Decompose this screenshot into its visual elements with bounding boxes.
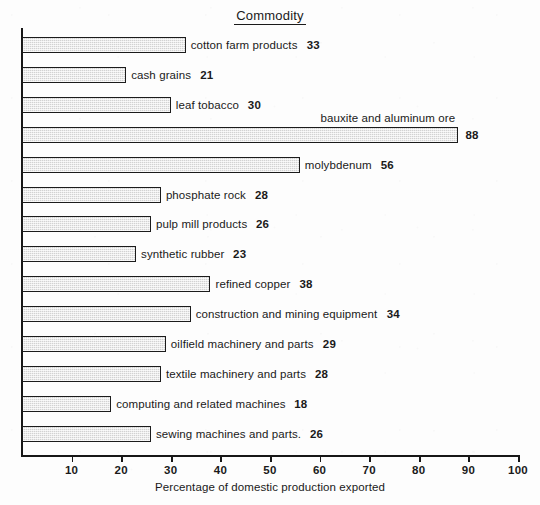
bar-value: 23 (233, 248, 246, 260)
x-tick-label: 100 (508, 464, 528, 476)
x-tick (419, 455, 421, 462)
bar-value: 26 (256, 218, 269, 230)
bar-label: oilfield machinery and parts (171, 338, 314, 350)
bar-label: bauxite and aluminum ore (320, 112, 455, 124)
bar-label: cash grains (131, 69, 191, 81)
bar[interactable] (22, 336, 166, 352)
bar-value: 18 (294, 398, 307, 410)
x-tick-label: 50 (263, 464, 276, 476)
bar-label: pulp mill products (156, 218, 247, 230)
bar-label: refined copper (215, 278, 290, 290)
bar-value: 29 (323, 338, 336, 350)
bar-label: cotton farm products (191, 39, 298, 51)
bar-row: oilfield machinery and parts29 (22, 336, 518, 352)
bar-chart: Commodity cotton farm products33cash gra… (0, 0, 540, 505)
bar-row: textile machinery and parts28 (22, 366, 518, 382)
bar[interactable] (22, 216, 151, 232)
bar[interactable] (22, 67, 126, 83)
bar-value: 38 (299, 278, 312, 290)
bar[interactable] (22, 246, 136, 262)
x-tick-label: 30 (164, 464, 177, 476)
x-tick (72, 455, 74, 462)
bar-row: molybdenum56 (22, 157, 518, 173)
bar-row: computing and related machines18 (22, 396, 518, 412)
x-tick (270, 455, 272, 462)
bar[interactable] (22, 157, 300, 173)
bar-label: sewing machines and parts. (156, 427, 301, 439)
x-tick (121, 455, 123, 462)
x-axis-title: Percentage of domestic production export… (22, 481, 518, 493)
x-tick (220, 455, 222, 462)
bar-row: leaf tobacco30 (22, 97, 518, 113)
bar-row: sewing machines and parts.26 (22, 426, 518, 442)
bar[interactable] (22, 276, 210, 292)
bar-label: leaf tobacco (176, 99, 239, 111)
chart-title-text: Commodity (234, 8, 306, 25)
bar-row: synthetic rubber23 (22, 246, 518, 262)
bar-value: 28 (255, 188, 268, 200)
bar-value: 28 (315, 368, 328, 380)
bar-value: 56 (381, 158, 394, 170)
bar-value: 30 (248, 99, 261, 111)
plot-area: cotton farm products33cash grains21leaf … (22, 28, 518, 455)
bar[interactable] (22, 97, 171, 113)
bar-label: construction and mining equipment (196, 308, 378, 320)
x-tick (468, 455, 470, 462)
x-tick-label: 20 (114, 464, 127, 476)
bar-row: construction and mining equipment34 (22, 306, 518, 322)
x-tick (320, 455, 322, 462)
bar-label: molybdenum (305, 158, 372, 170)
bar-row: cotton farm products33 (22, 37, 518, 53)
x-tick-label: 90 (462, 464, 475, 476)
x-tick (369, 455, 371, 462)
bar[interactable] (22, 187, 161, 203)
bar-value: 33 (307, 39, 320, 51)
bar-value: 88 (465, 128, 478, 140)
bar-label: phosphate rock (166, 188, 246, 200)
x-tick-label: 60 (313, 464, 326, 476)
bar-row: bauxite and aluminum ore88 (22, 127, 518, 143)
x-tick-label: 40 (214, 464, 227, 476)
bar-value: 34 (387, 308, 400, 320)
bar[interactable] (22, 127, 458, 143)
bar-label: textile machinery and parts (166, 368, 306, 380)
x-tick-label: 10 (65, 464, 78, 476)
x-tick-label: 70 (362, 464, 375, 476)
bar-row: phosphate rock28 (22, 187, 518, 203)
bar[interactable] (22, 306, 191, 322)
bar-value: 21 (200, 69, 213, 81)
x-tick (518, 455, 520, 462)
bar-row: pulp mill products26 (22, 216, 518, 232)
bar[interactable] (22, 37, 186, 53)
bar-value: 26 (310, 427, 323, 439)
bar-label: computing and related machines (116, 398, 285, 410)
bar-row: cash grains21 (22, 67, 518, 83)
chart-title: Commodity (0, 8, 540, 25)
bar[interactable] (22, 366, 161, 382)
x-tick-label: 80 (412, 464, 425, 476)
x-tick (171, 455, 173, 462)
bar-label: synthetic rubber (141, 248, 224, 260)
y-axis-line (21, 28, 23, 457)
bar-row: refined copper38 (22, 276, 518, 292)
bar[interactable] (22, 426, 151, 442)
bar[interactable] (22, 396, 111, 412)
